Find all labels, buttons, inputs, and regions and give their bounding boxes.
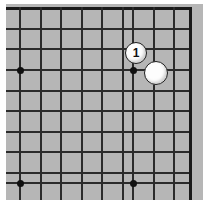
grid-line-v-3 xyxy=(60,7,62,200)
stone-white-plain-label xyxy=(145,62,167,84)
grid-line-h-3 xyxy=(6,48,191,50)
stone-white-plain xyxy=(144,61,168,85)
grid-line-h-2 xyxy=(6,28,191,30)
grid-line-v-5 xyxy=(101,7,103,200)
hoshi-corner xyxy=(130,67,137,74)
grid-line-v-2 xyxy=(40,7,42,200)
grid-line-h-6 xyxy=(6,110,191,112)
grid-line-h-10 xyxy=(6,182,191,184)
go-board-diagram: 1 xyxy=(0,0,210,205)
hoshi-bottom-left xyxy=(17,180,24,187)
board-edge-right xyxy=(189,7,192,200)
stone-move-1: 1 xyxy=(125,42,147,64)
grid-line-v-8 xyxy=(153,7,155,200)
grid-line-h-9 xyxy=(6,172,191,174)
board-edge-top xyxy=(6,7,192,10)
hoshi-bottom-center xyxy=(130,180,137,187)
grid-line-v-4 xyxy=(81,7,83,200)
grid-line-h-7 xyxy=(6,131,191,133)
grid-line-v-6 xyxy=(122,7,124,200)
grid-line-h-8 xyxy=(6,151,191,153)
stone-move-1-label: 1 xyxy=(126,43,146,63)
hoshi-left xyxy=(17,67,24,74)
grid-line-v-7 xyxy=(132,7,134,200)
grid-line-h-5 xyxy=(6,90,191,92)
grid-line-v-9 xyxy=(173,7,175,200)
grid-line-v-1 xyxy=(19,7,21,200)
